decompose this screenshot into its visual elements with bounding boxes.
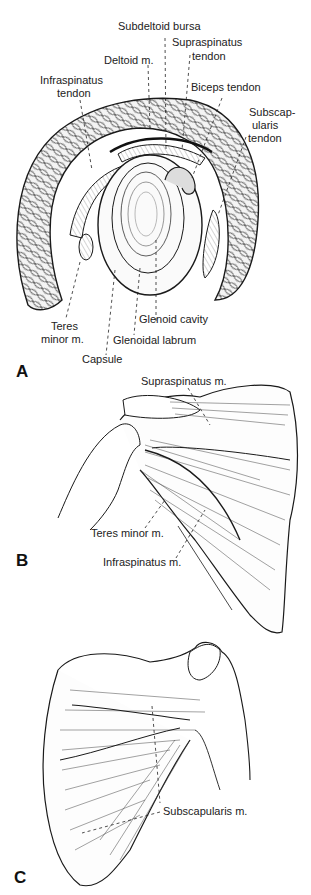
- panel-letter-a: A: [16, 362, 28, 382]
- label-teres-minor-line2: minor m.: [41, 333, 84, 346]
- label-capsule: Capsule: [82, 353, 122, 366]
- panel-letter-b: B: [16, 551, 28, 571]
- label-glenoidal-labrum: Glenoidal labrum: [113, 334, 196, 347]
- label-supraspinatus-tendon-line1: Supraspinatus: [172, 36, 242, 49]
- panel-letter-c: C: [14, 868, 26, 888]
- label-supraspinatus-tendon-line2: tendon: [192, 50, 226, 63]
- label-deltoid: Deltoid m.: [104, 54, 154, 67]
- label-subscapularis-muscle: Subscapularis m.: [163, 805, 247, 818]
- teres-minor-section: [79, 234, 93, 260]
- label-subscapularis-tendon-line1: Subscap-: [249, 106, 295, 119]
- label-teres-minor-line1: Teres: [51, 320, 78, 333]
- label-supraspinatus-muscle: Supraspinatus m.: [141, 375, 227, 388]
- panel-b-drawing: [58, 385, 298, 633]
- label-infraspinatus-muscle: Infraspinatus m.: [103, 556, 181, 569]
- label-infraspinatus-tendon-line2: tendon: [57, 87, 91, 100]
- subscapularis-tendon: [203, 210, 219, 278]
- label-subdeltoid-bursa: Subdeltoid bursa: [118, 20, 201, 33]
- label-teres-minor-muscle: Teres minor m.: [91, 527, 164, 540]
- label-subscapularis-tendon-line2: ularis: [252, 119, 278, 132]
- label-infraspinatus-tendon-line1: Infraspinatus: [40, 74, 103, 87]
- label-subscapularis-tendon-line3: tendon: [248, 132, 282, 145]
- label-glenoid-cavity: Glenoid cavity: [139, 313, 208, 326]
- panel-c-drawing: [43, 642, 250, 885]
- label-biceps-tendon: Biceps tendon: [191, 81, 261, 94]
